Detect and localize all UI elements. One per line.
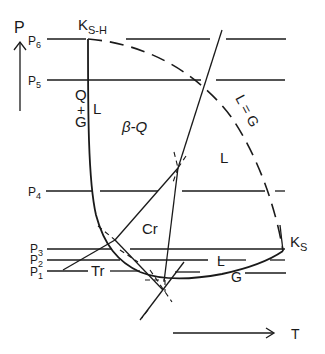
region-g-bottom-label: G	[231, 269, 242, 285]
cr-l-boundary	[164, 168, 178, 282]
cr-tr-boundary	[115, 240, 163, 290]
p5-label: P5	[28, 74, 41, 90]
temperature-axis-label: T	[291, 326, 300, 342]
ks-label: KS	[290, 233, 307, 253]
q-g-boundary-curve	[88, 39, 140, 272]
region-l-left-label: L	[93, 100, 101, 117]
pressure-axis-label: P	[14, 19, 25, 36]
region-g-label: G	[75, 113, 87, 130]
tr-boundary-left	[63, 240, 115, 270]
g-l-bottom-curve	[140, 251, 283, 278]
region-cr-label: Cr	[142, 220, 158, 237]
region-q-label: Q	[75, 86, 87, 103]
phase-diagram: P T P6 P5 P4 P3 P2 P1	[0, 0, 325, 354]
p4-label: P4	[28, 185, 41, 201]
region-l-eq-g-label: L = G	[232, 92, 262, 130]
temperature-axis-arrow	[173, 328, 274, 338]
pressure-axis-arrow	[14, 42, 26, 111]
region-l-right-label: L	[220, 149, 228, 166]
p6-label: P6	[28, 34, 41, 50]
region-l-bottom-label: L	[217, 253, 225, 269]
region-beta-q-label: β-Q	[121, 118, 148, 135]
isobar-p1	[47, 271, 286, 273]
region-tr-label: Tr	[91, 262, 105, 279]
ks-h-label: KS-H	[78, 16, 107, 36]
